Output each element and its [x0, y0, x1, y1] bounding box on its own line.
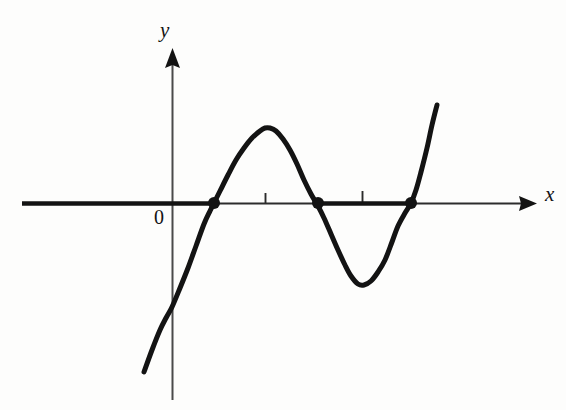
- origin-label: 0: [154, 207, 164, 227]
- x-axis-label: x: [545, 184, 554, 205]
- y-axis-label: y: [160, 20, 169, 41]
- root-marker-1: [208, 197, 220, 209]
- graph-canvas: [0, 0, 566, 410]
- y-axis-arrowhead: [165, 48, 180, 68]
- x-axis-arrowhead: [519, 196, 537, 211]
- root-marker-2: [312, 197, 324, 209]
- cubic-curve: [144, 105, 437, 372]
- root-marker-3: [405, 197, 417, 209]
- graph-figure: y x 0: [0, 0, 566, 410]
